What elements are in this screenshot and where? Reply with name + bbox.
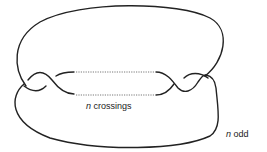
left-twist-strand-b (24, 86, 46, 91)
crossings-text: crossings (94, 101, 132, 111)
right-twist-strand-a (156, 72, 206, 91)
parity-text: odd (234, 129, 249, 139)
left-twist-strand-c (56, 72, 74, 76)
crossings-variable: n (86, 101, 91, 111)
parity-label: n odd (226, 129, 249, 139)
crossings-label: n crossings (86, 101, 132, 111)
right-twist-strand-b (156, 84, 174, 95)
right-twist-strand-c (184, 74, 208, 79)
parity-variable: n (226, 129, 231, 139)
